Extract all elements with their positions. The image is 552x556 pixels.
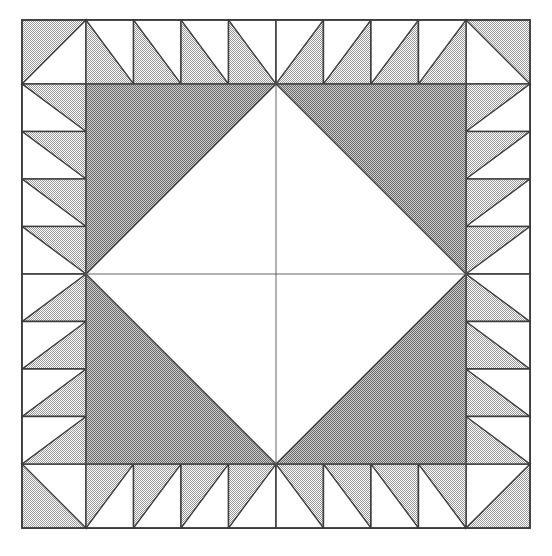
quilt-block (22, 20, 530, 528)
quilt-figure-root: Quilt Block Pattern (0, 0, 552, 556)
quilt-block-diagram (0, 0, 552, 556)
